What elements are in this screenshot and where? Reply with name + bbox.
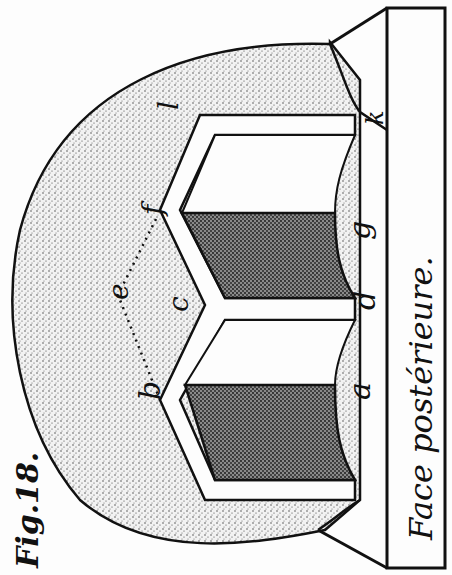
svg-text:k: k [361,110,389,125]
label-k: k [361,110,389,125]
svg-text:d: d [347,291,382,310]
svg-text:a: a [342,382,377,400]
svg-text:Fig.18.: Fig.18. [10,452,45,569]
label-d: d [347,291,382,310]
svg-text:g: g [342,221,377,240]
svg-text:c: c [162,296,195,312]
svg-text:b: b [132,381,167,400]
figure-title: Fig.18. [10,452,45,569]
engraving-figure: l f e c b g d a k Face postérieure. Fig.… [0,0,452,575]
svg-text:e: e [102,283,135,300]
label-g: g [342,221,377,240]
label-a: a [342,382,377,400]
label-c: c [162,296,195,312]
svg-text:l: l [152,101,185,110]
dark-cell-lower [185,385,355,480]
label-e: e [102,283,135,300]
svg-text:Face postérieure.: Face postérieure. [402,256,440,541]
caption-face-posterieure: Face postérieure. [402,256,440,541]
label-b: b [132,381,167,400]
label-l: l [152,101,185,110]
figure-drawing: l f e c b g d a k Face postérieure. Fig.… [0,0,452,575]
